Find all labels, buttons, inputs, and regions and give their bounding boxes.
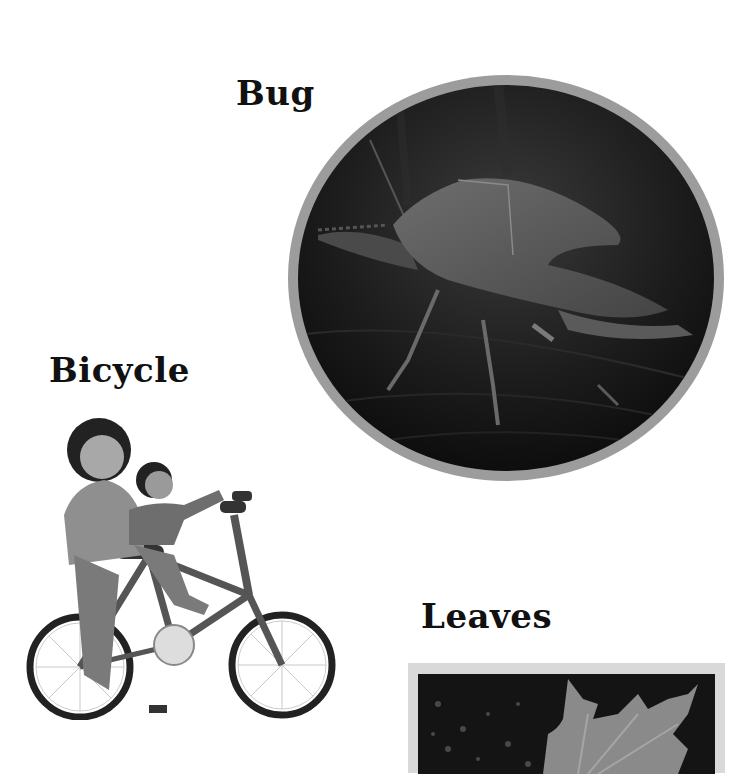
- leaves-photo-frame: [408, 663, 725, 773]
- bug-image: [298, 85, 714, 471]
- bicycle-label: Bicycle: [49, 353, 190, 387]
- chainring: [154, 625, 194, 665]
- bicycle-illustration: [24, 405, 339, 720]
- leaves-label: Leaves: [421, 599, 552, 633]
- bug-photo-frame: [288, 75, 724, 481]
- leaves-image: [418, 674, 715, 774]
